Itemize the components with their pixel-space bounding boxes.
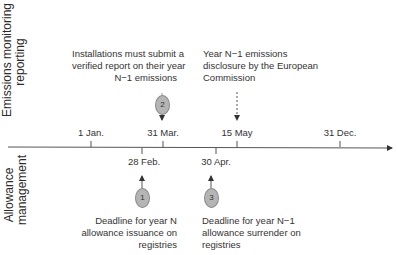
section-label-emissions: Emissions monitoring and reporting — [1, 7, 29, 117]
ec-disclosure-description: Year N−1 emissions disclosure by the Eur… — [203, 48, 318, 84]
event-2-marker: 2 — [155, 95, 170, 115]
event-3-marker: 3 — [204, 188, 219, 208]
event-2-description: Installations must submit a verified rep… — [72, 48, 177, 84]
timeline-axis — [8, 147, 392, 148]
tick-label-1-jan: 1 Jan. — [78, 127, 104, 138]
section-label-allowance: Allowance management — [3, 165, 31, 225]
event-1-description: Deadline for year N allowance issuance o… — [70, 215, 177, 251]
tick-label-30-apr: 30 Apr. — [201, 156, 231, 167]
tick-label-28-feb: 28 Feb. — [128, 156, 160, 167]
tick-label-15-may: 15 May — [221, 127, 252, 138]
tick-label-31-dec: 31 Dec. — [324, 127, 357, 138]
tick-label-31-mar: 31 Mar. — [147, 127, 179, 138]
event-3-description: Deadline for year N−1 allowance surrende… — [202, 215, 301, 251]
event-1-marker: 1 — [135, 188, 150, 208]
